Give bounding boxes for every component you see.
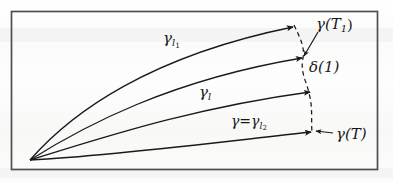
dashed-curve-delta <box>294 25 312 133</box>
label-gamma-T1: γ(T1) <box>316 17 352 34</box>
label-gamma-l: γl <box>199 85 211 102</box>
label-gamma-l2-base: γ=γ <box>231 113 259 129</box>
label-delta-1-text: δ(1) <box>309 58 339 76</box>
pointer-gamma-T1 <box>304 32 318 56</box>
label-gamma-eq-gamma-l2: γ=γl2 <box>231 114 267 132</box>
label-gamma-l1-subsub: 1 <box>175 41 180 50</box>
label-gamma-T1-base: γ(T <box>316 15 341 33</box>
label-gamma-l-base: γ <box>199 83 208 101</box>
curve-gamma-l2 <box>30 132 311 160</box>
curve-gamma-l <box>30 92 310 160</box>
label-gamma-T-text: γ(T) <box>336 125 367 143</box>
curve-gamma-intermediate <box>30 58 302 160</box>
label-gamma-l1-base: γ <box>163 29 172 47</box>
label-gamma-l-sub: l <box>208 91 211 102</box>
label-gamma-T: γ(T) <box>336 127 367 142</box>
curve-gamma-l1 <box>30 27 293 160</box>
label-gamma-T1-close: ) <box>347 16 352 32</box>
label-gamma-l1: γl1 <box>163 31 180 49</box>
figure-canvas: γl1 γl γ=γl2 γ(T1) δ(1) γ(T) <box>0 0 393 182</box>
label-gamma-l2-subsub: 2 <box>262 124 266 132</box>
pointer-gamma-T <box>316 131 333 133</box>
label-delta-1: δ(1) <box>309 60 339 75</box>
